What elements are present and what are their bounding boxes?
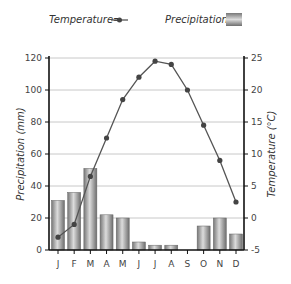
y-right-tick-label: 25	[251, 53, 262, 63]
precipitation-bar	[68, 192, 81, 250]
precipitation-bar	[100, 215, 113, 250]
temperature-point	[120, 97, 125, 102]
precipitation-bar	[116, 218, 129, 250]
x-tick-label: F	[72, 259, 77, 269]
legend: Temperature= Precipitation=	[49, 13, 242, 26]
y-right-tick-label: 20	[251, 85, 263, 95]
x-tick-label: A	[103, 259, 110, 269]
x-tick-label: M	[86, 259, 94, 269]
y-left-tick-label: 80	[31, 117, 43, 127]
temperature-point	[217, 158, 222, 163]
y-right-tick-label: 5	[251, 181, 257, 191]
x-tick-label: D	[233, 259, 240, 269]
temperature-point	[201, 123, 206, 128]
precipitation-bar	[132, 242, 145, 250]
temperature-line	[55, 59, 238, 240]
x-tick-label: J	[56, 259, 60, 269]
temperature-point	[185, 87, 190, 92]
x-tick-label: O	[200, 259, 207, 269]
x-tick-label: M	[119, 259, 127, 269]
precipitation-bar	[52, 200, 65, 250]
temperature-point	[152, 59, 157, 64]
temperature-point	[233, 199, 238, 204]
x-tick-label: J	[137, 259, 141, 269]
y-axis-left-label: Precipitation (mm)	[15, 107, 26, 200]
x-tick-label: A	[168, 259, 175, 269]
x-tick-label: N	[216, 259, 223, 269]
y-left-tick-label: 0	[36, 245, 42, 255]
y-axis-right-label: Temperature (°C)	[266, 111, 277, 198]
y-left-tick-label: 100	[25, 85, 42, 95]
precipitation-bar	[213, 218, 226, 250]
y-right-tick-label: 15	[251, 117, 262, 127]
y-left-tick-label: 40	[31, 181, 43, 191]
temperature-point	[88, 174, 93, 179]
x-tick-label: J	[153, 259, 157, 269]
temperature-point	[169, 62, 174, 67]
precipitation-bar	[84, 168, 97, 250]
precipitation-bar	[197, 226, 210, 250]
y-right-tick-label: 0	[251, 213, 257, 223]
temperature-point	[136, 75, 141, 80]
y-right-tick-label: 10	[251, 149, 263, 159]
legend-temperature-label: Temperature=	[49, 14, 121, 25]
climate-chart: Temperature= Precipitation= 020406080100…	[0, 0, 291, 284]
y-right-tick-label: -5	[251, 245, 260, 255]
x-tick-label: S	[185, 259, 191, 269]
temperature-point	[104, 135, 109, 140]
precipitation-bars	[52, 168, 243, 250]
y-left-tick-label: 60	[31, 149, 43, 159]
precipitation-bar	[230, 234, 243, 250]
temperature-point	[72, 222, 77, 227]
legend-precipitation-label: Precipitation=	[165, 14, 236, 25]
temperature-point	[55, 235, 60, 240]
y-left-tick-label: 120	[25, 53, 42, 63]
y-left-tick-label: 20	[31, 213, 43, 223]
legend-precipitation-swatch	[226, 13, 242, 26]
